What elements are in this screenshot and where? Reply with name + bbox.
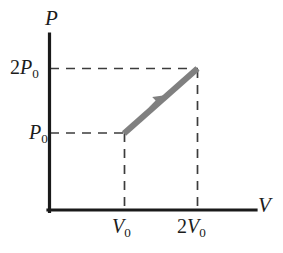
x-tick-2v0-symbol: V — [187, 215, 199, 237]
y-tick-label-p0: P0 — [29, 122, 48, 145]
y-tick-label-2p0: 2P0 — [10, 57, 39, 80]
volume-axis-label: V — [258, 195, 271, 216]
process-line — [124, 69, 198, 134]
y-tick-p0-symbol: P — [29, 121, 41, 143]
x-tick-label-v0: V0 — [112, 216, 131, 239]
axes — [48, 34, 256, 212]
x-tick-label-2v0: 2V0 — [177, 216, 206, 239]
pv-diagram-figure: P V 2P0 P0 V0 2V0 — [0, 0, 283, 253]
pressure-axis-label: P — [45, 8, 58, 29]
x-tick-2v0-coefficient: 2 — [177, 215, 187, 237]
process-line-group — [124, 69, 198, 134]
y-tick-2p0-coefficient: 2 — [10, 56, 20, 78]
x-tick-v0-symbol: V — [112, 215, 124, 237]
x-tick-2v0-subscript: 0 — [199, 225, 206, 240]
y-tick-2p0-subscript: 0 — [32, 66, 39, 81]
pressure-axis-label-text: P — [45, 6, 58, 30]
volume-axis-label-text: V — [258, 193, 271, 217]
y-tick-2p0-symbol: P — [20, 56, 32, 78]
x-tick-v0-subscript: 0 — [124, 225, 131, 240]
y-tick-p0-subscript: 0 — [41, 131, 48, 146]
